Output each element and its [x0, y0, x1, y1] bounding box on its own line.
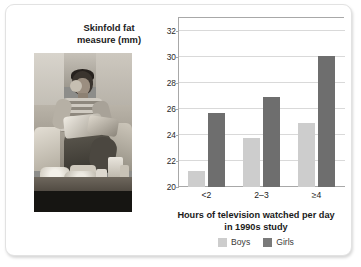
legend-label: Girls: [276, 237, 294, 247]
y-axis-tick-label: 26: [167, 104, 176, 114]
figure-card: Tony Freeman/PhotoEdit: [5, 4, 352, 256]
y-axis-tick-label: 20: [167, 182, 176, 192]
bar-boys-1: [243, 138, 260, 187]
bar-group: <2: [179, 18, 234, 187]
photo-image: [34, 53, 132, 212]
bars-layer: <22–3≥4: [179, 18, 344, 187]
legend-label: Boys: [231, 237, 250, 247]
y-axis-tick-label: 22: [167, 156, 176, 166]
x-axis-title: Hours of television watched per day in 1…: [156, 210, 352, 233]
y-axis-tick: [176, 187, 179, 188]
legend-swatch-boys: [218, 238, 227, 247]
x-axis-title-line1: Hours of television watched per day: [156, 210, 352, 222]
y-axis-tick-label: 30: [167, 52, 176, 62]
bar-group: ≥4: [289, 18, 344, 187]
photo-block: Tony Freeman/PhotoEdit: [20, 53, 132, 212]
y-axis-tick-label: 32: [167, 26, 176, 36]
x-axis-tick-label: 2–3: [254, 190, 268, 200]
x-axis-tick-label: <2: [202, 190, 212, 200]
x-axis-tick-label: ≥4: [312, 190, 322, 200]
bar-group: 2–3: [234, 18, 289, 187]
y-axis-title: Skinfold fat measure (mm): [68, 22, 150, 45]
x-axis-title-line2: in 1990s study: [156, 222, 352, 234]
legend-item-girls: Girls: [263, 237, 294, 247]
legend-swatch-girls: [263, 238, 272, 247]
y-axis-tick-label: 28: [167, 78, 176, 88]
y-axis-tick-label: 24: [167, 130, 176, 140]
bar-girls-0: [208, 113, 225, 187]
chart-legend: BoysGirls: [156, 237, 352, 247]
bar-boys-0: [188, 171, 205, 187]
legend-item-boys: Boys: [218, 237, 250, 247]
bar-chart: 20222426283032 <22–3≥4: [161, 17, 344, 197]
bar-girls-1: [263, 97, 280, 187]
bar-boys-2: [298, 123, 315, 187]
bar-girls-2: [318, 56, 335, 187]
plot-area: 20222426283032 <22–3≥4: [178, 17, 344, 187]
